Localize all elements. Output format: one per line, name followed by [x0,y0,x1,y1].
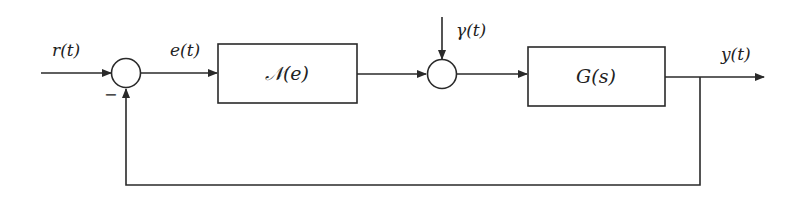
minus-sign: − [104,85,117,104]
error-label: e(t) [170,40,200,60]
plant-label: G(s) [576,65,616,87]
input-label: r(t) [52,40,80,60]
output-label: y(t) [720,44,751,64]
feedback-path [126,77,700,185]
summing-junction-2 [428,60,457,89]
nonlinearity-label: 𝒩(e) [265,62,309,84]
block-diagram: r(t) − e(t) 𝒩(e) γ(t) G(s) y(t) [0,0,803,199]
disturbance-label: γ(t) [456,20,486,40]
summing-junction-1 [112,59,141,88]
